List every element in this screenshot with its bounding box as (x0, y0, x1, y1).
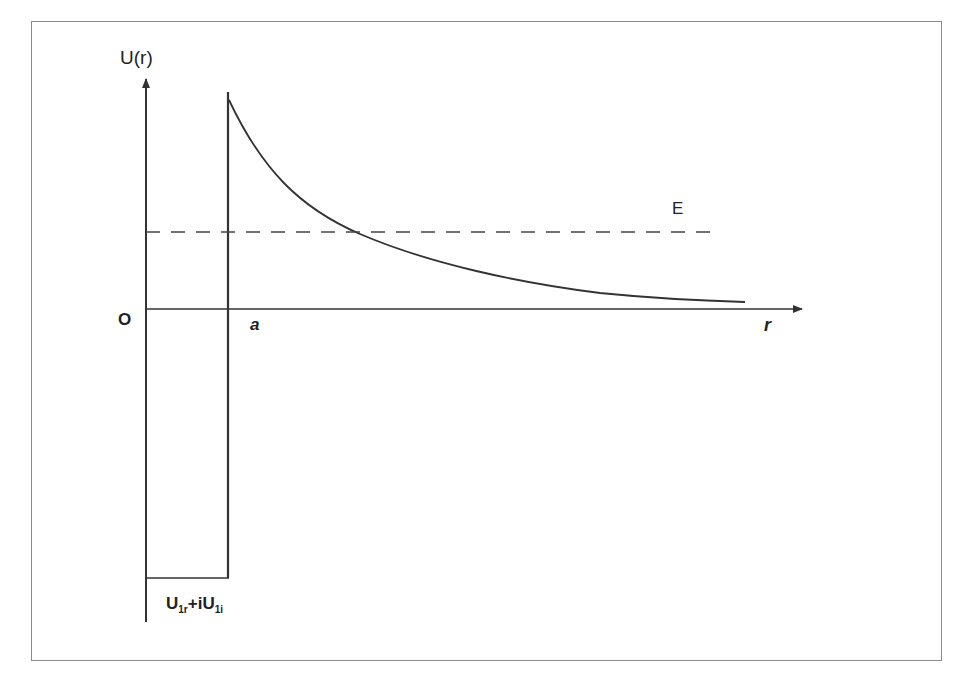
potential-curve (229, 100, 745, 302)
y-axis-label: U(r) (120, 47, 153, 68)
potential-diagram: U(r) O a r E U1r+iU1i (0, 0, 967, 692)
origin-label: O (118, 310, 131, 329)
barrier-position-label: a (250, 315, 259, 334)
x-axis-label: r (764, 315, 772, 335)
well-depth-label: U1r+iU1i (166, 594, 223, 615)
energy-label: E (672, 199, 683, 218)
